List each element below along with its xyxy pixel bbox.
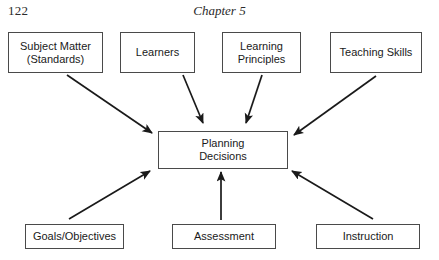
arrow-instruction-to-planning xyxy=(292,171,373,219)
node-learners: Learners xyxy=(120,32,195,73)
node-goals-objectives: Goals/Objectives xyxy=(25,224,124,249)
arrow-teaching-skills-to-planning xyxy=(294,76,376,135)
arrow-subject-matter-to-planning xyxy=(67,75,152,133)
planning-decisions-diagram: Subject Matter (Standards) Learners Lear… xyxy=(0,0,439,260)
node-learning-principles: Learning Principles xyxy=(222,32,301,73)
node-teaching-skills: Teaching Skills xyxy=(330,32,422,73)
node-assessment: Assessment xyxy=(172,224,276,249)
arrow-goals-objectives-to-planning xyxy=(69,171,150,219)
node-subject-matter: Subject Matter (Standards) xyxy=(8,32,103,73)
arrow-learners-to-planning xyxy=(183,75,203,123)
textbook-page: 122 Chapter 5 Subject Matter (Standards)… xyxy=(0,0,439,260)
node-planning-decisions: Planning Decisions xyxy=(158,131,288,169)
node-instruction: Instruction xyxy=(316,224,420,249)
arrow-learning-principles-to-planning xyxy=(246,75,262,123)
